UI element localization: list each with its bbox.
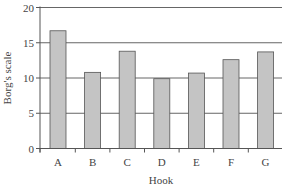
- y-tick-label: 20: [23, 2, 35, 14]
- bar-chart: 05101520 ABCDEFG Hook Borg's scale: [0, 0, 282, 188]
- bar-c: [119, 51, 135, 148]
- x-tick-label: B: [89, 156, 96, 168]
- y-axis-label: Borg's scale: [1, 51, 13, 104]
- bar-f: [223, 60, 239, 149]
- y-tick-label: 10: [23, 72, 35, 84]
- bar-d: [154, 79, 170, 149]
- y-axis-ticks: 05101520: [23, 2, 40, 155]
- bar-g: [258, 52, 274, 149]
- y-tick-label: 5: [29, 107, 35, 119]
- y-tick-label: 0: [29, 143, 35, 155]
- x-tick-label: F: [228, 156, 234, 168]
- x-axis-label: Hook: [149, 174, 174, 186]
- x-axis-ticks: ABCDEFG: [40, 149, 270, 169]
- y-tick-label: 15: [23, 37, 35, 49]
- bar-b: [85, 72, 101, 148]
- bar-e: [188, 73, 204, 148]
- x-tick-label: G: [262, 156, 270, 168]
- bars: [50, 31, 274, 149]
- x-tick-label: A: [54, 156, 62, 168]
- bar-a: [50, 31, 66, 149]
- x-tick-label: D: [158, 156, 166, 168]
- x-tick-label: E: [193, 156, 200, 168]
- x-tick-label: C: [124, 156, 131, 168]
